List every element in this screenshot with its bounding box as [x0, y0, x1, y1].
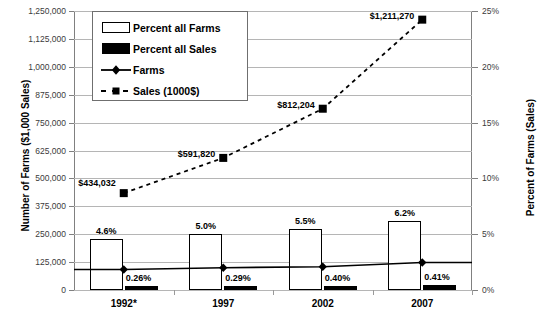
y-axis-right-title: Percent of Farms (Sales) [525, 58, 536, 258]
dashed-square-icon [99, 82, 133, 100]
y-axis-left-tick-label: 250,000 [4, 229, 66, 239]
line-diamond-icon [99, 61, 133, 79]
y-axis-left-tick-label: 125,000 [4, 257, 66, 267]
solid-bar-icon [99, 40, 133, 58]
y-axis-left-tick-label: 1,125,000 [4, 34, 66, 44]
open-bar-icon [99, 19, 133, 37]
sales-data-point [120, 189, 128, 197]
y-axis-right-tick [472, 234, 478, 235]
sales-data-point [219, 154, 227, 162]
farms-data-point [120, 265, 128, 273]
x-axis-category-label: 2002 [273, 298, 373, 309]
sales-value-label: $591,820 [135, 149, 215, 159]
y-axis-right-tick [472, 67, 478, 68]
y-axis-left-tick-label: 1,000,000 [4, 62, 66, 72]
farms-markers [120, 258, 427, 273]
legend-item-percent-all-farms[interactable]: Percent all Farms [99, 17, 241, 38]
y-axis-right-tick-label: 10% [482, 173, 522, 183]
y-axis-left-tick-label: 625,000 [4, 146, 66, 156]
x-axis-category-label: 1992* [74, 298, 174, 309]
y-axis-left-tick-label: 0 [4, 285, 66, 295]
legend-item-percent-all-sales[interactable]: Percent all Sales [99, 38, 241, 59]
legend-label: Percent all Sales [133, 43, 216, 55]
legend-label: Percent all Farms [133, 22, 221, 34]
y-axis-right-tick [472, 123, 478, 124]
y-axis-right-tick-label: 5% [482, 229, 522, 239]
sales-data-point [319, 105, 327, 113]
farms-data-point [219, 263, 227, 271]
y-axis-left-tick-label: 1,250,000 [4, 6, 66, 16]
sales-value-label: $1,211,270 [334, 11, 414, 21]
chart-legend: Percent all Farms Percent all Sales Farm… [92, 11, 248, 101]
x-axis-tick [472, 290, 473, 295]
farms-data-point [319, 263, 327, 271]
y-axis-left-tick-label: 750,000 [4, 118, 66, 128]
legend-label: Farms [133, 64, 165, 76]
farms-data-point [418, 258, 426, 266]
y-axis-right-tick-label: 20% [482, 62, 522, 72]
sales-value-label: $434,032 [36, 178, 116, 188]
chart-container: Number of Farms ($1,000 Sales) Percent o… [0, 0, 538, 322]
y-axis-right-tick-label: 0% [482, 285, 522, 295]
y-axis-left-tick-label: 375,000 [4, 201, 66, 211]
sales-value-label: $812,204 [235, 100, 315, 110]
y-axis-right-tick-label: 15% [482, 118, 522, 128]
x-axis-category-label: 2007 [372, 298, 472, 309]
sales-data-point [418, 16, 426, 24]
y-axis-left-title: Number of Farms ($1,000 Sales) [20, 56, 31, 256]
y-axis-right-tick [472, 178, 478, 179]
y-axis-left-tick-label: 875,000 [4, 90, 66, 100]
y-axis-right-tick-label: 25% [482, 6, 522, 16]
legend-label: Sales (1000$) [133, 85, 200, 97]
y-axis-right-tick [472, 11, 478, 12]
farms-line [74, 263, 472, 270]
legend-item-farms[interactable]: Farms [99, 59, 241, 80]
legend-item-sales[interactable]: Sales (1000$) [99, 80, 241, 101]
x-axis-category-label: 1997 [173, 298, 273, 309]
